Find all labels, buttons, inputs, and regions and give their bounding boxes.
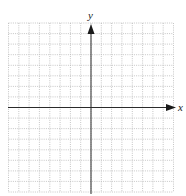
- y-axis-arrow-icon: [88, 24, 95, 34]
- y-axis-label: y: [87, 9, 93, 21]
- x-axis-arrow-icon: [166, 104, 176, 111]
- x-axis-label: x: [177, 101, 183, 113]
- coordinate-plane: x y: [0, 0, 186, 196]
